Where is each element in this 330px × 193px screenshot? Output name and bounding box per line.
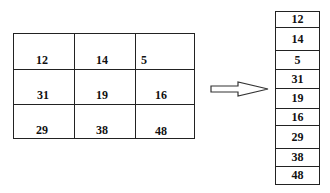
- matrix-3x3: 12 14 5 31 19 16 29 38 48: [13, 33, 195, 139]
- matrix-cell: 16: [155, 89, 167, 101]
- grid-row-divider: [14, 69, 194, 70]
- right-arrow-icon: [210, 80, 270, 98]
- grid-column-divider: [135, 34, 136, 138]
- flattened-column: 12 14 5 31 19 16 29 38 48: [275, 11, 320, 185]
- matrix-cell: 12: [36, 54, 48, 66]
- column-cell: 5: [276, 51, 319, 70]
- column-cell: 48: [276, 167, 319, 184]
- grid-column-divider: [74, 34, 75, 138]
- matrix-cell: 48: [155, 125, 167, 137]
- matrix-cell: 5: [141, 54, 147, 66]
- grid-row-divider: [14, 104, 194, 105]
- column-cell: 16: [276, 109, 319, 126]
- column-cell: 19: [276, 89, 319, 109]
- column-cell: 12: [276, 12, 319, 28]
- matrix-cell: 31: [37, 89, 49, 101]
- column-cell: 14: [276, 28, 319, 51]
- matrix-cell: 29: [36, 124, 48, 136]
- matrix-cell: 14: [96, 54, 108, 66]
- column-cell: 31: [276, 70, 319, 89]
- column-cell: 29: [276, 126, 319, 149]
- column-cell: 38: [276, 149, 319, 167]
- matrix-cell: 38: [96, 124, 108, 136]
- matrix-cell: 19: [96, 89, 108, 101]
